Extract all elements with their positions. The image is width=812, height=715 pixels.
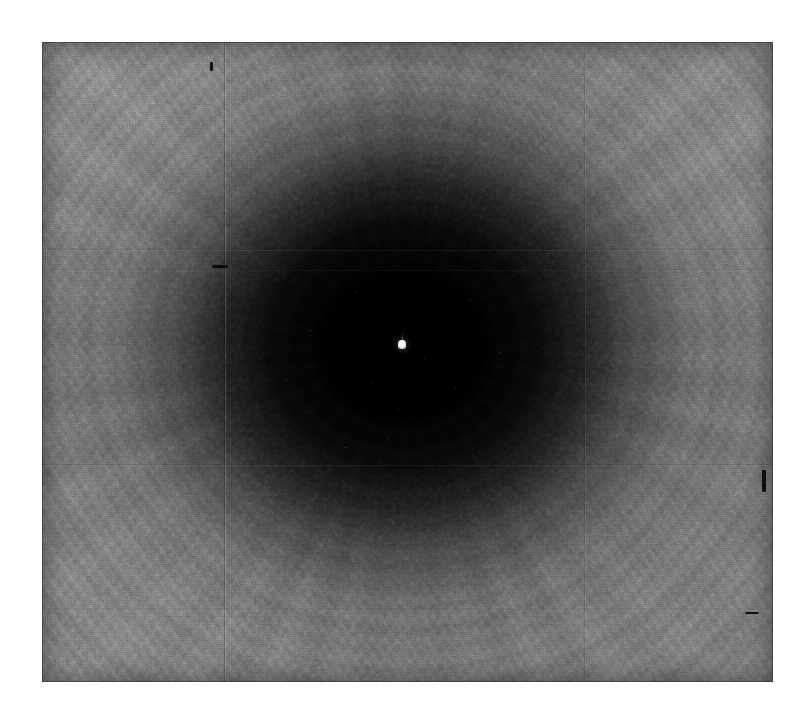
center-bright-point [398,340,406,349]
seam-horizontal-upper-alt [42,270,773,271]
seam-vertical-right [585,42,586,682]
seam-horizontal-lower [42,465,773,466]
speck [388,438,389,439]
speck [372,382,373,383]
artwork-description: Photograph of a large charcoal and graph… [0,0,1,1]
speck [310,330,311,331]
seam-vertical-left [225,42,226,682]
speck [500,352,501,353]
image-canvas: Photograph of a large charcoal and graph… [0,0,812,715]
speck [330,262,331,263]
speck [455,388,456,389]
speck [398,409,399,410]
speck [470,300,471,301]
nick-upper-left [212,265,228,268]
seam-horizontal-bottom [42,610,773,611]
speck [286,380,287,381]
artwork-plate [42,42,773,682]
nick-lower-right [745,612,759,614]
nick-right-edge [762,470,766,492]
speck [356,291,357,292]
nick-upper-center [210,62,213,71]
speck [345,447,346,448]
speck [424,358,425,359]
coarse-grain-layer [42,42,773,682]
seam-horizontal-upper [42,250,773,251]
